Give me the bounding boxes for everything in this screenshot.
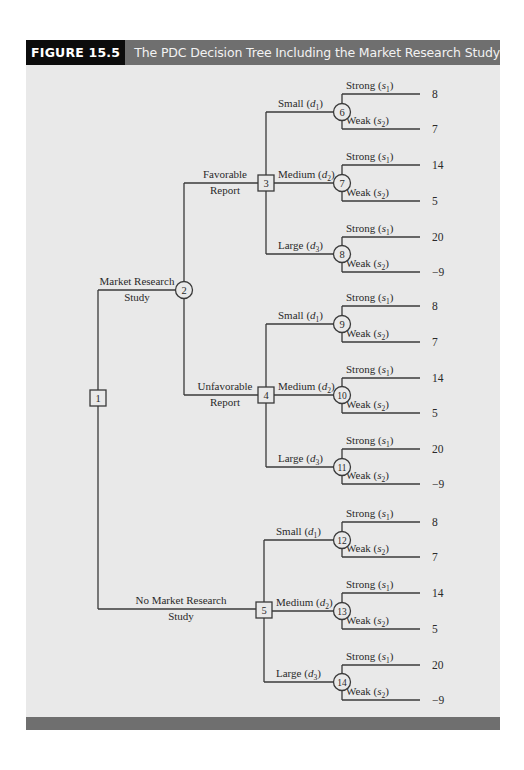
state-of-nature-label: Weak (s2) (346, 257, 389, 272)
payoff-value: 8 (432, 300, 438, 312)
decision-alternative-label: Medium (d2) (278, 168, 335, 183)
payoff-value: 14 (432, 372, 444, 384)
chance-node-label: 12 (337, 536, 347, 546)
state-of-nature-label: Weak (s2) (346, 685, 389, 700)
study-branch-label: Study (168, 610, 194, 622)
decision-node-label: 3 (263, 178, 268, 189)
state-of-nature-label: Weak (s2) (346, 114, 389, 129)
payoff-value: 14 (432, 159, 444, 171)
payoff-value: −9 (432, 266, 444, 278)
report-branch-label: Unfavorable (198, 380, 253, 392)
payoff-value: 20 (432, 659, 444, 671)
payoff-value: 20 (432, 231, 444, 243)
chance-node-label: 14 (337, 678, 347, 688)
chance-node-label: 11 (337, 463, 346, 473)
decision-alternative-label: Large (d3) (276, 667, 321, 682)
decision-tree-diagram: Market ResearchStudyNo Market ResearchSt… (0, 0, 524, 770)
chance-node-label: 13 (337, 607, 347, 617)
state-of-nature-label: Weak (s2) (346, 469, 389, 484)
state-of-nature-label: Strong (s1) (346, 150, 394, 165)
decision-alternative-label: Small (d1) (276, 525, 321, 540)
state-of-nature-label: Strong (s1) (346, 578, 394, 593)
chance-node-label: 10 (337, 391, 347, 401)
payoff-value: 7 (432, 123, 438, 135)
state-of-nature-label: Strong (s1) (346, 434, 394, 449)
study-branch-label: Market Research (100, 275, 175, 287)
decision-alternative-label: Medium (d2) (278, 380, 335, 395)
payoff-value: 5 (432, 195, 438, 207)
chance-node-label: 9 (339, 319, 344, 330)
payoff-value: 5 (432, 623, 438, 635)
state-of-nature-label: Strong (s1) (346, 222, 394, 237)
decision-node-label: 4 (263, 390, 269, 401)
payoff-value: 7 (432, 551, 438, 563)
state-of-nature-label: Strong (s1) (346, 507, 394, 522)
payoff-value: −9 (432, 694, 444, 706)
state-of-nature-label: Weak (s2) (346, 614, 389, 629)
decision-node-label: 1 (95, 393, 100, 404)
state-of-nature-label: Weak (s2) (346, 186, 389, 201)
state-of-nature-label: Weak (s2) (346, 327, 389, 342)
state-of-nature-label: Weak (s2) (346, 542, 389, 557)
decision-alternative-label: Small (d1) (278, 97, 323, 112)
report-branch-label: Favorable (203, 168, 247, 180)
state-of-nature-label: Strong (s1) (346, 291, 394, 306)
study-branch-label: Study (124, 291, 150, 303)
payoff-value: 14 (432, 587, 444, 599)
payoff-value: 7 (432, 336, 438, 348)
report-branch-label: Report (210, 184, 240, 196)
state-of-nature-label: Strong (s1) (346, 363, 394, 378)
chance-node-label: 2 (181, 285, 186, 296)
decision-alternative-label: Large (d3) (278, 239, 323, 254)
payoff-value: 8 (432, 88, 438, 100)
decision-alternative-label: Medium (d2) (276, 596, 333, 611)
chance-node-label: 8 (339, 249, 344, 260)
state-of-nature-label: Strong (s1) (346, 650, 394, 665)
decision-alternative-label: Small (d1) (278, 309, 323, 324)
chance-node-label: 6 (339, 107, 344, 118)
payoff-value: 5 (432, 407, 438, 419)
study-branch-label: No Market Research (135, 594, 227, 606)
payoff-value: −9 (432, 478, 444, 490)
report-branch-label: Report (210, 396, 240, 408)
payoff-value: 20 (432, 443, 444, 455)
state-of-nature-label: Weak (s2) (346, 398, 389, 413)
payoff-value: 8 (432, 516, 438, 528)
decision-alternative-label: Large (d3) (278, 452, 323, 467)
state-of-nature-label: Strong (s1) (346, 79, 394, 94)
chance-node-label: 7 (339, 178, 344, 189)
decision-node-label: 5 (261, 605, 266, 616)
